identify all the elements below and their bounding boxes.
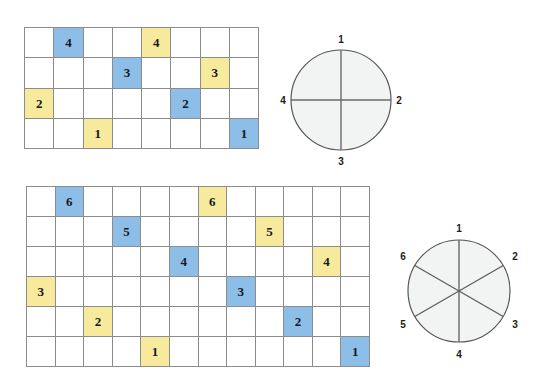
grid-cell-empty xyxy=(284,187,313,217)
sector-label-6: 6 xyxy=(400,251,406,262)
grid-cell-empty xyxy=(113,247,142,277)
grid-cell-empty xyxy=(341,277,370,307)
grid-cell-empty xyxy=(84,337,113,367)
grid-cell-empty xyxy=(171,119,200,149)
grid-cell-filled: 5 xyxy=(113,217,142,247)
grid-cell-empty xyxy=(84,187,113,217)
grid-cell-empty xyxy=(230,28,259,58)
grid-cell-empty xyxy=(341,247,370,277)
grid-cell-empty xyxy=(84,58,113,88)
grid-cell-empty xyxy=(142,119,171,149)
grid-cell-filled: 3 xyxy=(201,58,230,88)
sector-label-4: 4 xyxy=(280,95,286,106)
sixths-grid: 665544332211 xyxy=(26,186,370,367)
grid-cell-empty xyxy=(201,119,230,149)
grid-cell-filled: 1 xyxy=(230,119,259,149)
grid-cell-filled: 2 xyxy=(284,307,313,337)
grid-cell-empty xyxy=(199,247,228,277)
grid-cell-empty xyxy=(141,217,170,247)
grid-cell-empty xyxy=(25,58,54,88)
grid-cell-empty xyxy=(84,217,113,247)
grid-cell-empty xyxy=(284,277,313,307)
grid-cell-empty xyxy=(227,337,256,367)
grid-cell-filled: 3 xyxy=(227,277,256,307)
grid-cell-empty xyxy=(113,337,142,367)
grid-cell-empty xyxy=(170,217,199,247)
grid-cell-empty xyxy=(227,187,256,217)
grid-cell-empty xyxy=(171,28,200,58)
grid-cell-filled: 2 xyxy=(25,89,54,119)
grid-cell-filled: 4 xyxy=(170,247,199,277)
sector-label-3: 3 xyxy=(512,319,518,330)
fourths-grid: 44332211 xyxy=(24,27,259,149)
grid-cell-empty xyxy=(141,247,170,277)
grid-cell-empty xyxy=(230,58,259,88)
grid-cell-empty xyxy=(27,337,56,367)
grid-cell-empty xyxy=(27,247,56,277)
grid-cell-empty xyxy=(56,217,85,247)
grid-cell-empty xyxy=(27,217,56,247)
grid-cell-empty xyxy=(113,119,142,149)
grid-cell-empty xyxy=(113,307,142,337)
grid-cell-empty xyxy=(256,307,285,337)
sixths-circle: 1 2 3 4 5 6 xyxy=(396,210,524,376)
grid-cell-empty xyxy=(113,89,142,119)
grid-cell-empty xyxy=(170,337,199,367)
grid-cell-empty xyxy=(313,337,342,367)
grid-cell-empty xyxy=(141,307,170,337)
grid-cell-empty xyxy=(199,277,228,307)
grid-cell-empty xyxy=(284,247,313,277)
grid-cell-filled: 6 xyxy=(199,187,228,217)
grid-cell-empty xyxy=(256,277,285,307)
grid-cell-filled: 1 xyxy=(141,337,170,367)
grid-cell-empty xyxy=(84,247,113,277)
grid-cell-empty xyxy=(25,28,54,58)
grid-cell-empty xyxy=(27,307,56,337)
grid-cell-empty xyxy=(313,217,342,247)
grid-cell-empty xyxy=(170,187,199,217)
grid-cell-filled: 1 xyxy=(84,119,113,149)
grid-cell-empty xyxy=(171,58,200,88)
sector-label-5: 5 xyxy=(400,319,406,330)
grid-cell-empty xyxy=(341,307,370,337)
figure-canvas: 44332211 1 2 3 4 665544332211 1 2 3 4 xyxy=(0,0,536,377)
grid-cell-empty xyxy=(142,58,171,88)
grid-cell-empty xyxy=(199,217,228,247)
grid-cell-filled: 3 xyxy=(27,277,56,307)
grid-cell-empty xyxy=(256,187,285,217)
grid-cell-empty xyxy=(170,277,199,307)
grid-cell-empty xyxy=(113,187,142,217)
grid-cell-empty xyxy=(27,187,56,217)
grid-cell-empty xyxy=(142,89,171,119)
grid-cell-empty xyxy=(199,337,228,367)
grid-cell-empty xyxy=(141,187,170,217)
grid-cell-empty xyxy=(256,337,285,367)
grid-cell-filled: 4 xyxy=(313,247,342,277)
grid-cell-filled: 4 xyxy=(54,28,83,58)
grid-cell-empty xyxy=(256,247,285,277)
sector-label-1: 1 xyxy=(338,34,344,45)
grid-cell-filled: 5 xyxy=(256,217,285,247)
grid-cell-empty xyxy=(170,307,199,337)
grid-cell-empty xyxy=(54,58,83,88)
grid-cell-empty xyxy=(199,307,228,337)
grid-cell-empty xyxy=(56,307,85,337)
grid-cell-empty xyxy=(341,217,370,247)
grid-cell-empty xyxy=(284,337,313,367)
grid-cell-empty xyxy=(141,277,170,307)
sector-label-1: 1 xyxy=(456,223,462,234)
grid-cell-empty xyxy=(201,28,230,58)
grid-cell-filled: 2 xyxy=(84,307,113,337)
grid-cell-empty xyxy=(313,307,342,337)
sector-label-3: 3 xyxy=(338,156,344,167)
sector-label-2: 2 xyxy=(396,95,402,106)
grid-cell-empty xyxy=(84,277,113,307)
grid-cell-empty xyxy=(54,119,83,149)
grid-cell-empty xyxy=(227,307,256,337)
fourths-circle: 1 2 3 4 xyxy=(281,18,406,182)
sector-label-2: 2 xyxy=(512,251,518,262)
grid-cell-empty xyxy=(25,119,54,149)
grid-cell-empty xyxy=(230,89,259,119)
grid-cell-filled: 4 xyxy=(142,28,171,58)
grid-cell-empty xyxy=(84,28,113,58)
